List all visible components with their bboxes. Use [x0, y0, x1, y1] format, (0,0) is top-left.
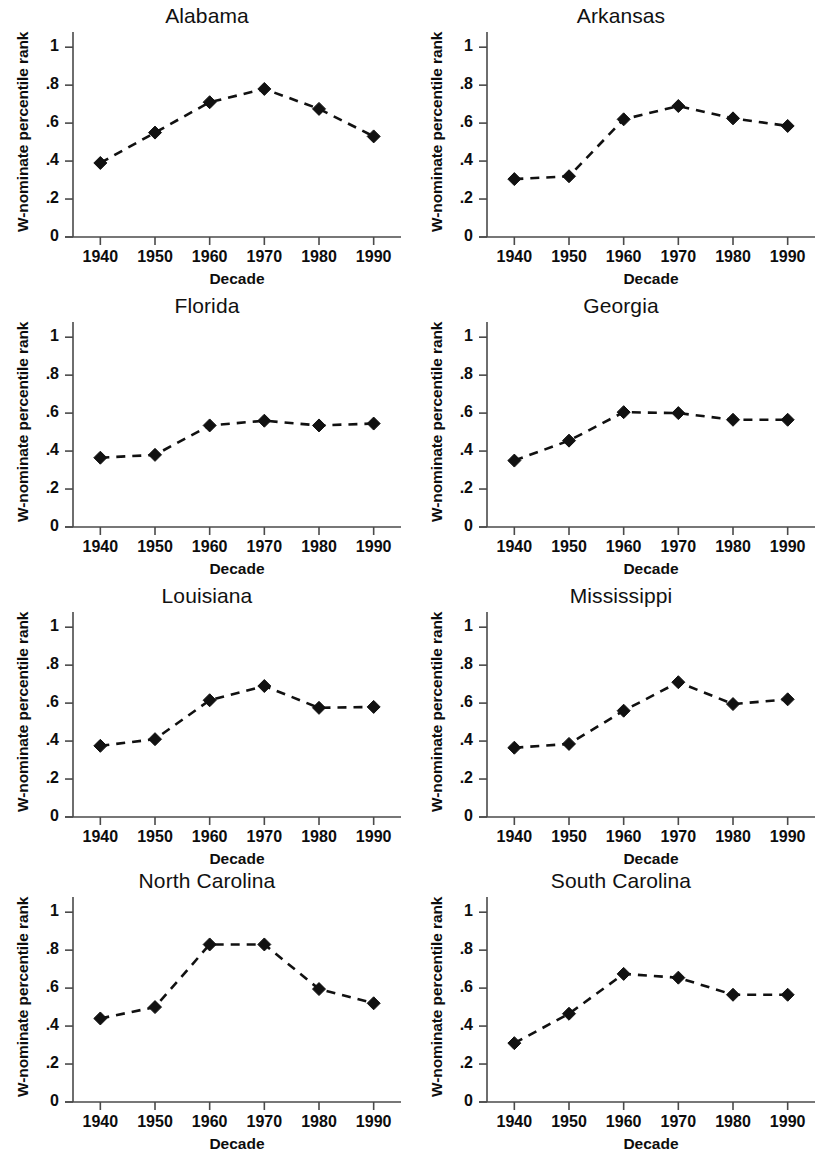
series-line [514, 412, 787, 460]
y-axis-label: W-nominate percentile rank [14, 897, 32, 1097]
x-tick-label: 1970 [648, 1113, 708, 1131]
data-point-marker [672, 971, 685, 984]
data-point-marker [258, 414, 271, 427]
x-tick-label: 1990 [344, 828, 404, 846]
x-tick-label: 1980 [703, 538, 763, 556]
data-point-marker [727, 698, 740, 711]
data-point-marker [313, 701, 326, 714]
chart-panel-louisiana: Louisiana0.2.4.6.81194019501960197019801… [0, 580, 414, 865]
x-tick-label: 1970 [648, 828, 708, 846]
x-tick-label: 1960 [594, 1113, 654, 1131]
data-point-marker [781, 119, 794, 132]
data-point-marker [367, 417, 380, 430]
chart-panel-arkansas: Arkansas0.2.4.6.811940195019601970198019… [414, 0, 828, 290]
data-point-marker [313, 419, 326, 432]
y-axis-label: W-nominate percentile rank [14, 612, 32, 812]
x-tick-label: 1980 [289, 828, 349, 846]
x-tick-label: 1950 [125, 1113, 185, 1131]
chart-panel-mississippi: Mississippi0.2.4.6.811940195019601970198… [414, 580, 828, 865]
data-point-marker [94, 451, 107, 464]
x-tick-label: 1960 [180, 828, 240, 846]
x-tick-label: 1950 [125, 538, 185, 556]
x-tick-label: 1970 [234, 1113, 294, 1131]
chart-panel-georgia: Georgia0.2.4.6.8119401950196019701980199… [414, 290, 828, 580]
data-point-marker [203, 96, 216, 109]
x-tick-label: 1970 [648, 538, 708, 556]
x-tick-label: 1980 [703, 248, 763, 266]
x-tick-label: 1950 [539, 1113, 599, 1131]
x-tick-label: 1960 [180, 538, 240, 556]
x-tick-label: 1990 [344, 538, 404, 556]
data-point-marker [508, 1037, 521, 1050]
data-point-marker [727, 413, 740, 426]
x-tick-label: 1990 [344, 248, 404, 266]
x-tick-label: 1940 [484, 248, 544, 266]
data-point-marker [94, 739, 107, 752]
x-tick-label: 1990 [758, 248, 818, 266]
data-point-marker [672, 407, 685, 420]
data-point-marker [563, 170, 576, 183]
x-tick-label: 1980 [289, 248, 349, 266]
x-tick-label: 1940 [70, 828, 130, 846]
x-tick-label: 1980 [289, 1113, 349, 1131]
chart-panel-alabama: Alabama0.2.4.6.8119401950196019701980199… [0, 0, 414, 290]
x-tick-label: 1960 [180, 1113, 240, 1131]
data-point-marker [313, 102, 326, 115]
series-line [100, 89, 373, 163]
x-tick-label: 1990 [758, 538, 818, 556]
x-tick-label: 1940 [484, 1113, 544, 1131]
data-point-marker [367, 700, 380, 713]
x-tick-label: 1990 [344, 1113, 404, 1131]
data-point-marker [563, 737, 576, 750]
series-line [514, 974, 787, 1043]
series-line [100, 944, 373, 1018]
x-tick-label: 1960 [594, 248, 654, 266]
y-axis-label: W-nominate percentile rank [14, 32, 32, 232]
x-tick-label: 1950 [125, 248, 185, 266]
x-tick-label: 1950 [539, 828, 599, 846]
data-point-marker [149, 733, 162, 746]
x-tick-label: 1950 [539, 248, 599, 266]
data-point-marker [781, 988, 794, 1001]
x-tick-label: 1980 [289, 538, 349, 556]
data-point-marker [508, 173, 521, 186]
x-tick-label: 1970 [648, 248, 708, 266]
data-point-marker [149, 448, 162, 461]
x-tick-label: 1960 [180, 248, 240, 266]
series-line [100, 421, 373, 458]
x-tick-label: 1940 [484, 828, 544, 846]
x-axis-label: Decade [487, 270, 815, 288]
x-tick-label: 1940 [484, 538, 544, 556]
data-point-marker [617, 967, 630, 980]
x-tick-label: 1940 [70, 538, 130, 556]
x-tick-label: 1960 [594, 538, 654, 556]
x-tick-label: 1940 [70, 1113, 130, 1131]
data-point-marker [672, 100, 685, 113]
y-axis-label: W-nominate percentile rank [428, 612, 446, 812]
x-tick-label: 1970 [234, 538, 294, 556]
data-point-marker [149, 1001, 162, 1014]
data-point-marker [617, 113, 630, 126]
data-point-marker [258, 680, 271, 693]
x-axis-label: Decade [487, 560, 815, 578]
data-point-marker [508, 741, 521, 754]
series-line [514, 682, 787, 747]
data-point-marker [508, 454, 521, 467]
x-tick-label: 1980 [703, 1113, 763, 1131]
data-point-marker [727, 112, 740, 125]
series-line [100, 686, 373, 746]
x-tick-label: 1980 [703, 828, 763, 846]
y-axis-label: W-nominate percentile rank [14, 322, 32, 522]
series-line [514, 106, 787, 179]
x-tick-label: 1940 [70, 248, 130, 266]
x-tick-label: 1990 [758, 828, 818, 846]
x-tick-label: 1950 [125, 828, 185, 846]
panel-grid: Alabama0.2.4.6.8119401950196019701980199… [0, 0, 828, 1157]
x-axis-label: Decade [73, 270, 401, 288]
y-axis-label: W-nominate percentile rank [428, 897, 446, 1097]
chart-panel-south-carolina: South Carolina0.2.4.6.811940195019601970… [414, 865, 828, 1157]
x-tick-label: 1950 [539, 538, 599, 556]
x-tick-label: 1960 [594, 828, 654, 846]
chart-panel-florida: Florida0.2.4.6.8119401950196019701980199… [0, 290, 414, 580]
data-point-marker [203, 419, 216, 432]
